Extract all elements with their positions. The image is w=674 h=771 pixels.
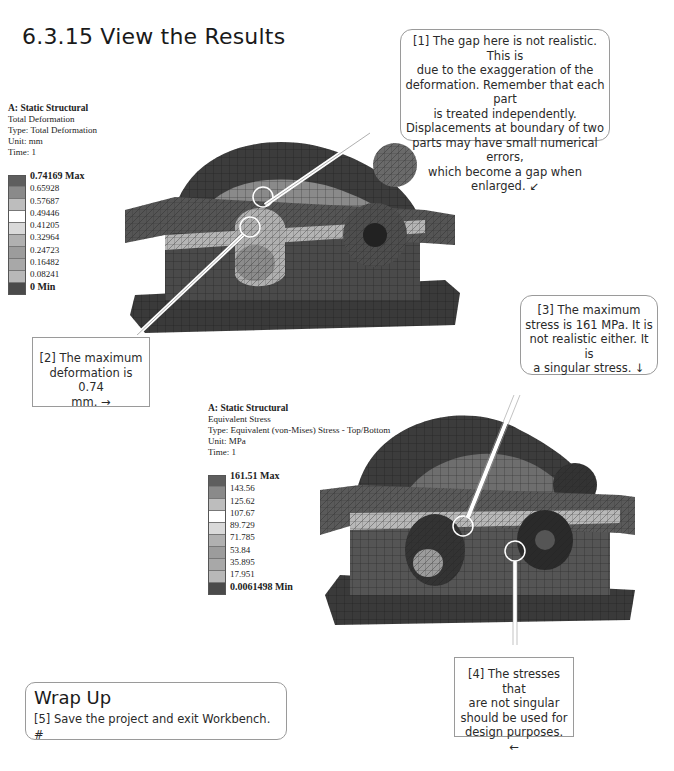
legend-system: A: Static Structural [8,103,97,114]
callout-line: [1] The gap here is not realistic. This … [405,34,605,63]
legend-result-name: Total Deformation [8,114,97,125]
legend-value: 0.41205 [30,219,97,231]
legend-time: Time: 1 [8,147,97,158]
callout-line: [2] The maximum [37,351,145,366]
color-scale-bar [8,175,26,295]
callout-gap-explanation: [1] The gap here is not realistic. This … [400,29,610,141]
callout-line: deformation is 0.74 [37,366,145,395]
legend-type: Type: Total Deformation [8,125,97,136]
callout-line: design purposes. ← [459,725,569,754]
legend-value: 0.08241 [30,268,97,280]
callout-line: are not singular [459,696,569,711]
callout-line: a singular stress. ↓ [525,361,653,376]
callout-line: mm. → [37,395,145,410]
stress-model-view[interactable] [320,395,650,645]
callout-line: Displacements at boundary of two [405,121,605,136]
legend-value: 0.57687 [30,195,97,207]
legend-value: 0.49446 [30,207,97,219]
callout-line: should be used for [459,711,569,726]
callout-line: [4] The stresses that [459,667,569,696]
callout-line: due to the exaggeration of the [405,63,605,78]
deformation-legend: A: Static Structural Total Deformation T… [8,103,97,293]
legend-min: 0 Min [30,281,97,293]
callout-line: not realistic either. It is [525,332,653,361]
callout-line: [3] The maximum [525,303,653,318]
legend-unit: Unit: mm [8,136,97,147]
callout-line: deformation. Remember that each part [405,78,605,107]
legend-value: 0.16482 [30,256,97,268]
legend-value: 0.32964 [30,231,97,243]
callout-line: which become a gap when enlarged. ↙ [405,165,605,194]
callout-line: is treated independently. [405,107,605,122]
wrap-up-box: Wrap Up [5] Save the project and exit Wo… [25,682,287,740]
callout-line: stress is 161 MPa. It is [525,318,653,333]
callout-line: parts may have small numerical errors, [405,136,605,165]
wrap-up-title: Wrap Up [34,687,278,709]
legend-value: 0.24723 [30,244,97,256]
callout-max-deformation: [2] The maximum deformation is 0.74 mm. … [32,337,150,407]
callout-max-stress: [3] The maximum stress is 161 MPa. It is… [520,295,658,375]
wrap-up-step: [5] Save the project and exit Workbench.… [34,711,278,743]
section-title: 6.3.15 View the Results [22,24,285,49]
callout-design-stress: [4] The stresses that are not singular s… [454,657,574,737]
color-scale-bar [208,475,226,595]
legend-max: 0.74169 Max [30,170,97,182]
legend-value: 0.65928 [30,182,97,194]
